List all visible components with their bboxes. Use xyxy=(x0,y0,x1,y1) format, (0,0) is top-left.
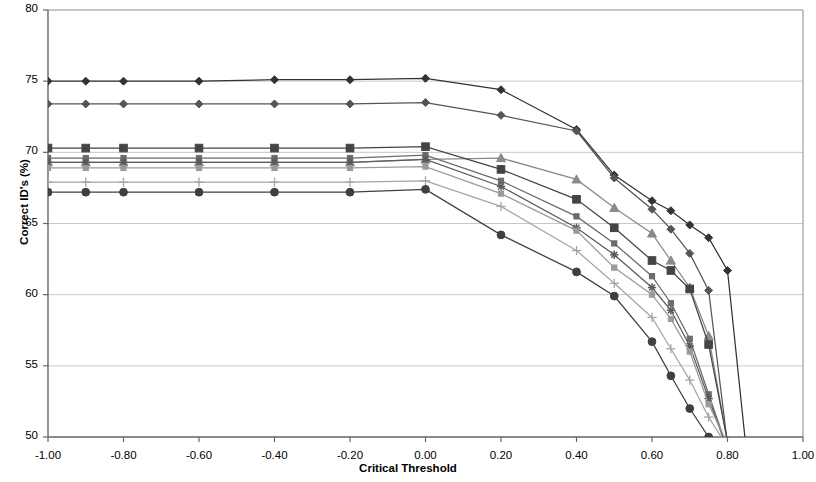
x-axis-title: Critical Threshold xyxy=(0,462,816,474)
data-point-square xyxy=(648,257,656,265)
data-point-asterisk xyxy=(667,306,675,314)
data-point-diamond xyxy=(422,99,430,107)
y-tick-label: 65 xyxy=(4,216,38,228)
data-point-small-square xyxy=(668,316,673,321)
data-point-small-square xyxy=(687,336,692,341)
data-point-small-square xyxy=(649,274,654,279)
data-point-square xyxy=(667,267,675,275)
data-point-circle xyxy=(686,405,694,413)
data-point-small-square xyxy=(612,265,617,270)
data-point-asterisk xyxy=(497,182,505,190)
data-point-small-square xyxy=(725,442,730,447)
y-tick-label: 60 xyxy=(4,287,38,299)
data-point-circle xyxy=(82,188,90,196)
data-point-circle xyxy=(573,268,581,276)
data-point-square xyxy=(422,143,430,151)
data-point-diamond xyxy=(195,100,203,108)
data-point-circle xyxy=(648,338,656,346)
data-point-diamond xyxy=(346,100,354,108)
data-point-diamond xyxy=(705,286,713,294)
data-point-diamond xyxy=(195,77,203,85)
data-point-circle xyxy=(422,185,430,193)
data-point-small-square xyxy=(574,228,579,233)
data-point-asterisk xyxy=(610,251,618,259)
data-point-square xyxy=(44,144,52,152)
data-point-square xyxy=(497,166,505,174)
chart-plot-svg xyxy=(0,0,816,482)
data-point-small-square xyxy=(574,214,579,219)
data-point-plus xyxy=(81,178,90,187)
data-point-circle xyxy=(120,188,128,196)
data-point-small-square xyxy=(706,402,711,407)
data-point-small-square xyxy=(347,165,352,170)
series-line-series-3 xyxy=(48,158,728,443)
series-layer xyxy=(43,74,746,454)
data-point-diamond xyxy=(44,100,52,108)
data-point-square xyxy=(610,224,618,232)
x-tick-label: -0.60 xyxy=(169,449,229,461)
data-point-small-square xyxy=(196,165,201,170)
data-point-square xyxy=(271,144,279,152)
data-point-diamond xyxy=(82,77,90,85)
data-point-plus xyxy=(194,178,203,187)
y-tick-label: 70 xyxy=(4,144,38,156)
data-point-diamond xyxy=(120,77,128,85)
data-point-small-square xyxy=(498,191,503,196)
x-tick-label: -0.40 xyxy=(245,449,305,461)
data-point-square xyxy=(573,196,581,204)
data-point-small-square xyxy=(668,301,673,306)
data-point-small-square xyxy=(121,165,126,170)
data-point-plus xyxy=(43,178,52,187)
series-line-series-1 xyxy=(48,78,746,451)
data-point-circle xyxy=(195,188,203,196)
data-point-circle xyxy=(497,231,505,239)
y-tick-label: 80 xyxy=(4,2,38,14)
data-point-triangle xyxy=(648,229,657,237)
data-point-plus xyxy=(345,178,354,187)
data-point-square xyxy=(705,341,713,349)
x-tick-label: -0.80 xyxy=(94,449,154,461)
series-line-series-6 xyxy=(48,159,728,449)
data-point-diamond xyxy=(497,86,505,94)
x-tick-label: 1.00 xyxy=(773,449,816,461)
y-tick-label: 75 xyxy=(4,73,38,85)
data-point-square xyxy=(120,144,128,152)
y-tick-label: 50 xyxy=(4,429,38,441)
data-point-square xyxy=(346,144,354,152)
series-line-series-9 xyxy=(48,189,728,454)
x-tick-label: 0.80 xyxy=(698,449,758,461)
data-point-asterisk xyxy=(421,155,429,163)
data-point-plus xyxy=(666,344,675,353)
data-point-small-square xyxy=(83,165,88,170)
data-point-triangle xyxy=(610,203,619,211)
series-line-series-8 xyxy=(48,181,728,447)
x-tick-label: 0.20 xyxy=(471,449,531,461)
data-point-circle xyxy=(44,188,52,196)
data-point-small-square xyxy=(272,165,277,170)
x-tick-label: -0.20 xyxy=(320,449,380,461)
chart-container: Correct ID's (%) Critical Threshold 5055… xyxy=(0,0,816,482)
data-point-plus xyxy=(119,178,128,187)
data-point-plus xyxy=(496,202,505,211)
data-point-asterisk xyxy=(648,283,656,291)
data-point-diamond xyxy=(271,100,279,108)
x-tick-label: 0.60 xyxy=(622,449,682,461)
y-tick-label: 55 xyxy=(4,358,38,370)
data-point-small-square xyxy=(649,292,654,297)
data-point-small-square xyxy=(45,165,50,170)
data-point-circle xyxy=(705,433,713,441)
data-point-diamond xyxy=(82,100,90,108)
x-tick-label: -1.00 xyxy=(18,449,78,461)
x-tick-label: 0.00 xyxy=(396,449,456,461)
data-point-diamond xyxy=(648,197,656,205)
data-point-diamond xyxy=(497,111,505,119)
data-point-circle xyxy=(667,372,675,380)
data-point-diamond xyxy=(271,76,279,84)
data-point-circle xyxy=(271,188,279,196)
data-point-diamond xyxy=(705,234,713,242)
data-point-diamond xyxy=(120,100,128,108)
data-point-circle xyxy=(610,292,618,300)
data-point-small-square xyxy=(612,241,617,246)
data-point-small-square xyxy=(687,349,692,354)
data-point-plus xyxy=(270,178,279,187)
